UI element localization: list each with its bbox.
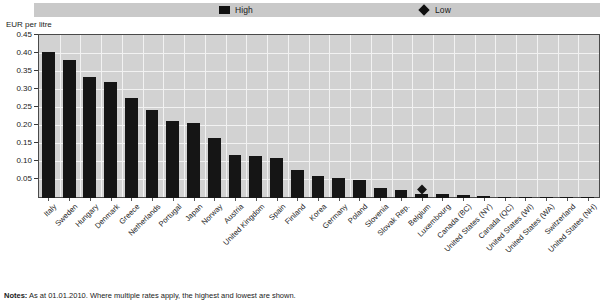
- x-axis-tick-mark: [111, 198, 112, 201]
- gridline-vertical: [537, 35, 538, 197]
- x-axis-labels: ItalySwedenHungaryDenmarkGreeceNetherlan…: [38, 202, 604, 288]
- x-axis-tick-mark: [90, 198, 91, 201]
- gridline-vertical: [578, 35, 579, 197]
- gridline-horizontal: [39, 125, 599, 126]
- y-axis-tick-mark: [34, 106, 38, 107]
- x-axis-tick-mark: [194, 198, 195, 201]
- x-axis-tick-label: Italy: [42, 202, 58, 218]
- x-axis-tick-mark: [484, 198, 485, 201]
- gridline-vertical: [267, 35, 268, 197]
- gridline-vertical: [184, 35, 185, 197]
- x-axis-tick-label: Finland: [283, 202, 307, 226]
- x-axis-tick-mark: [567, 198, 568, 201]
- gridline-vertical: [60, 35, 61, 197]
- plot-area: [38, 34, 600, 198]
- y-axis-tick-mark: [34, 52, 38, 53]
- gridline-vertical: [495, 35, 496, 197]
- y-axis-title: EUR per litre: [6, 20, 52, 29]
- gridline-horizontal: [39, 53, 599, 54]
- x-axis-tick-mark: [359, 198, 360, 201]
- gridline-vertical: [516, 35, 517, 197]
- x-axis-tick-mark: [546, 198, 547, 201]
- x-axis-tick-mark: [214, 198, 215, 201]
- y-axis-tick-mark: [34, 34, 38, 35]
- x-axis-tick-mark: [69, 198, 70, 201]
- y-axis-tick-mark: [34, 124, 38, 125]
- notes-prefix: Notes:: [4, 291, 27, 300]
- x-axis-tick-mark: [48, 198, 49, 201]
- gridline-vertical: [226, 35, 227, 197]
- x-axis-tick-mark: [505, 198, 506, 201]
- legend-entry-high: High: [219, 5, 253, 15]
- x-axis-tick-mark: [297, 198, 298, 201]
- x-axis-tick-mark: [588, 198, 589, 201]
- gridline-vertical: [350, 35, 351, 197]
- x-axis-tick-mark: [463, 198, 464, 201]
- gridline-vertical: [475, 35, 476, 197]
- x-axis-tick-mark: [339, 198, 340, 201]
- legend-label-low: Low: [435, 5, 451, 15]
- gridline-vertical: [246, 35, 247, 197]
- y-axis-tick-mark: [34, 88, 38, 89]
- x-axis-tick-mark: [235, 198, 236, 201]
- x-axis-tick-label: Norway: [200, 202, 225, 227]
- gridline-vertical: [143, 35, 144, 197]
- gridline-vertical: [412, 35, 413, 197]
- gridline-horizontal: [39, 143, 599, 144]
- x-axis-tick-mark: [152, 198, 153, 201]
- x-axis-tick-mark: [173, 198, 174, 201]
- filled-diamond-marker-icon: [418, 4, 429, 15]
- y-axis-tick-mark: [34, 160, 38, 161]
- gridline-vertical: [454, 35, 455, 197]
- legend-entry-low: Low: [419, 5, 451, 15]
- x-axis-tick-mark: [131, 198, 132, 201]
- x-axis-tick-mark: [318, 198, 319, 201]
- chart-legend: High Low: [34, 3, 600, 17]
- y-axis-tick-mark: [34, 70, 38, 71]
- gridline-horizontal: [39, 89, 599, 90]
- x-axis-tick-mark: [380, 198, 381, 201]
- notes-text: As at 01.01.2010. Where multiple rates a…: [27, 291, 295, 300]
- filled-square-marker-icon: [219, 6, 230, 14]
- gridline-vertical: [558, 35, 559, 197]
- gridline-vertical: [80, 35, 81, 197]
- gridline-vertical: [392, 35, 393, 197]
- chart-notes: Notes: As at 01.01.2010. Where multiple …: [4, 291, 600, 302]
- x-axis-tick-mark: [256, 198, 257, 201]
- gridline-vertical: [101, 35, 102, 197]
- gridline-vertical: [329, 35, 330, 197]
- gridline-horizontal: [39, 71, 599, 72]
- y-axis-ticks: [0, 34, 42, 198]
- y-axis-tick-mark: [34, 142, 38, 143]
- gridline-vertical: [309, 35, 310, 197]
- x-axis-tick-mark: [277, 198, 278, 201]
- gridline-vertical: [122, 35, 123, 197]
- gridline-horizontal: [39, 179, 599, 180]
- y-axis-tick-mark: [34, 178, 38, 179]
- x-axis-tick-mark: [525, 198, 526, 201]
- gridline-vertical: [433, 35, 434, 197]
- x-axis-tick-mark: [442, 198, 443, 201]
- gridline-horizontal: [39, 107, 599, 108]
- gridline-horizontal: [39, 161, 599, 162]
- gridline-vertical: [205, 35, 206, 197]
- legend-label-high: High: [235, 5, 253, 15]
- gridline-vertical: [163, 35, 164, 197]
- x-axis-tick-mark: [422, 198, 423, 201]
- x-axis-tick-mark: [401, 198, 402, 201]
- gridline-vertical: [371, 35, 372, 197]
- gridline-vertical: [288, 35, 289, 197]
